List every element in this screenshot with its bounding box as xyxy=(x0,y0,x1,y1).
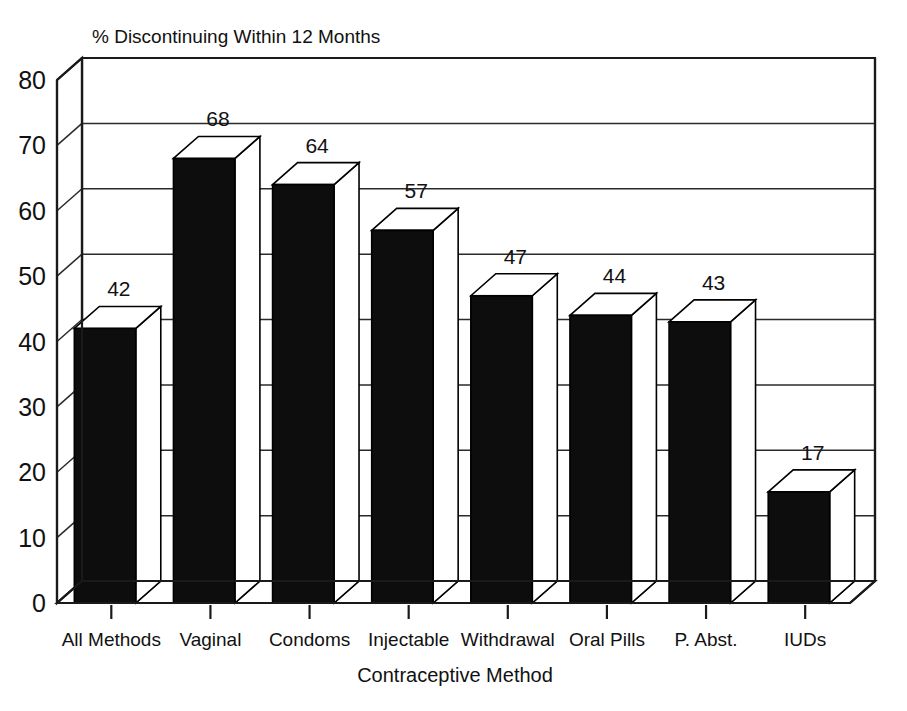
bar-value-label: 47 xyxy=(504,245,527,268)
bar-front-face xyxy=(768,492,829,603)
x-axis-title: Contraceptive Method xyxy=(357,664,553,686)
y-tick-label: 70 xyxy=(18,131,46,159)
bar-front-face xyxy=(173,158,234,603)
bar-value-label: 17 xyxy=(801,441,824,464)
y-tick-label: 50 xyxy=(18,262,46,290)
y-tick-label: 80 xyxy=(18,66,46,94)
bar xyxy=(768,470,854,603)
bar-front-face xyxy=(74,328,135,603)
y-tick-label: 60 xyxy=(18,197,46,225)
bar-front-face xyxy=(273,185,334,603)
bar-side-face xyxy=(631,293,656,603)
x-tick-label: All Methods xyxy=(62,629,161,650)
y-tick-label: 0 xyxy=(32,589,46,617)
bar-front-face xyxy=(669,322,730,603)
bar xyxy=(173,136,259,603)
bar-side-face xyxy=(433,208,458,603)
bar-value-label: 68 xyxy=(206,107,229,130)
chart-container: 01020304050607080 All MethodsVaginalCond… xyxy=(0,0,907,711)
bar xyxy=(471,274,557,603)
bar-side-face xyxy=(334,163,359,603)
bar-front-face xyxy=(471,296,532,603)
y-tick-label: 40 xyxy=(18,328,46,356)
x-tick-label: IUDs xyxy=(784,629,826,650)
y-tick-label: 30 xyxy=(18,393,46,421)
x-tick-label: Vaginal xyxy=(179,629,241,650)
y-tick-label: 10 xyxy=(18,524,46,552)
bar-value-label: 42 xyxy=(107,277,130,300)
bar-value-label: 44 xyxy=(603,264,627,287)
bar-side-face xyxy=(235,136,260,603)
bar-side-face xyxy=(136,306,161,603)
chart-title: % Discontinuing Within 12 Months xyxy=(92,26,380,47)
bar-value-label: 64 xyxy=(305,134,329,157)
bar-side-face xyxy=(532,274,557,603)
bar xyxy=(669,300,755,603)
x-tick-label: Injectable xyxy=(368,629,449,650)
y-tick-labels: 01020304050607080 xyxy=(18,66,46,617)
bar-value-label: 43 xyxy=(702,271,725,294)
bar-side-face xyxy=(830,470,855,603)
bar-front-face xyxy=(570,315,631,603)
bar xyxy=(570,293,656,603)
x-tick-label: Withdrawal xyxy=(461,629,555,650)
bar xyxy=(74,306,160,603)
bar-front-face xyxy=(372,230,433,603)
y-tick-label: 20 xyxy=(18,458,46,486)
bar-chart-3d: 01020304050607080 All MethodsVaginalCond… xyxy=(0,0,907,711)
x-tick-label: P. Abst. xyxy=(675,629,738,650)
bar xyxy=(273,163,359,603)
x-tick-label: Oral Pills xyxy=(569,629,645,650)
x-tick-label: Condoms xyxy=(269,629,350,650)
bar xyxy=(372,208,458,603)
bar-value-label: 57 xyxy=(405,179,428,202)
bar-side-face xyxy=(731,300,756,603)
